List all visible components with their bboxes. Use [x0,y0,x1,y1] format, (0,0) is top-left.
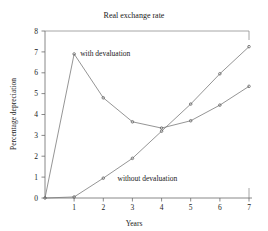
chart-container: Real exchange rate 0 1 2 3 4 5 [0,0,268,231]
chart-title: Real exchange rate [104,11,165,20]
y-axis-title: Percentage depreciation [9,78,18,150]
y-tick-label-1: 1 [34,173,38,182]
y-axis-ticks [42,31,46,198]
x-tick-label-1: 1 [72,203,76,212]
x-tick-label-4: 4 [160,203,164,212]
series-annotation-with-devaluation: with devaluation [80,49,130,58]
y-tick-label-7: 7 [34,48,38,57]
x-tick-label-5: 5 [189,203,193,212]
x-axis-title: Years [126,219,143,228]
y-axis-tick-labels: 0 1 2 3 4 5 6 7 8 [34,27,38,203]
data-point-marker [248,85,251,88]
y-tick-label-2: 2 [34,152,38,161]
y-tick-label-3: 3 [34,131,38,140]
x-tick-label-6: 6 [218,203,222,212]
y-tick-label-8: 8 [34,27,38,36]
x-axis-tick-labels: 1 2 3 4 5 6 7 [72,203,251,212]
y-tick-label-6: 6 [34,68,38,77]
y-tick-label-5: 5 [34,89,38,98]
x-tick-label-2: 2 [101,203,105,212]
y-tick-label-4: 4 [34,110,38,119]
x-axis-ticks [74,198,249,202]
x-tick-label-3: 3 [131,203,135,212]
series-annotation-without-devaluation: without devaluation [117,174,177,183]
real-exchange-rate-chart: Real exchange rate 0 1 2 3 4 5 [0,0,268,231]
y-tick-label-0: 0 [34,194,38,203]
x-tick-label-7: 7 [247,203,251,212]
